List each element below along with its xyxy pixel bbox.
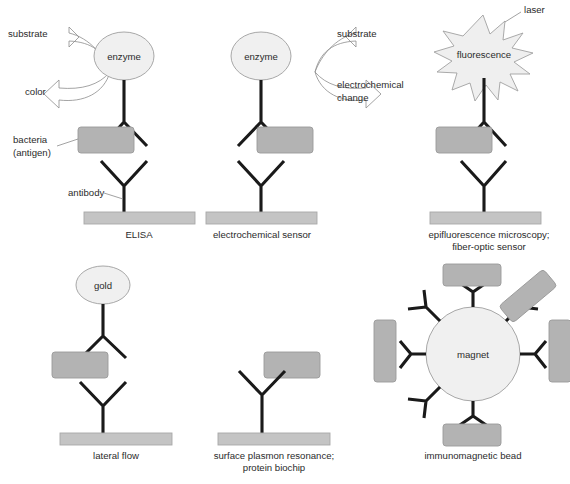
panel-epifluorescence: fluorescence laser epifluorescence micro… <box>428 4 549 252</box>
panel-caption-epifluorescence-line2: fiber-optic sensor <box>452 241 526 252</box>
antigen-box-bead-left <box>374 320 396 382</box>
antigen-box-bead-top <box>443 264 501 286</box>
gold-label: gold <box>94 280 112 291</box>
bacteria-leader-line <box>57 139 78 146</box>
panel-caption-immunomagnetic-bead: immunomagnetic bead <box>424 450 521 461</box>
antibody-lower-2 <box>238 161 284 213</box>
antibody-bead-right <box>520 341 546 368</box>
laser-leader-line <box>505 12 521 22</box>
antigen-box-5 <box>264 352 320 378</box>
antigen-box-bead-bottom <box>443 424 501 446</box>
panel-spr: surface plasmon resonance; protein bioch… <box>214 352 335 473</box>
laser-label: laser <box>524 4 546 15</box>
immunoassay-formats-diagram: enzyme substrate color bacteria (antigen… <box>0 0 570 484</box>
panel-elisa: enzyme substrate color bacteria (antigen… <box>8 27 195 240</box>
antigen-label: (antigen) <box>13 147 51 158</box>
panel-caption-spr-line2: protein biochip <box>243 462 305 473</box>
antigen-box-bead-tilted <box>499 269 558 323</box>
antibody-leader-line <box>104 193 123 199</box>
panel-electrochemical-sensor: enzyme substrate electrochemical change … <box>206 27 404 240</box>
color-arrow-icon <box>44 72 110 108</box>
figure-root: enzyme substrate color bacteria (antigen… <box>0 0 570 484</box>
color-label: color <box>25 86 47 97</box>
antibody-bead-bottom <box>457 401 489 427</box>
antibody-lower <box>101 161 147 213</box>
panel-lateral-flow: gold lateral flow <box>52 266 172 461</box>
antigen-box-2 <box>257 127 313 153</box>
support-bar-3 <box>430 212 541 224</box>
antigen-box-3 <box>436 127 492 153</box>
antibody-bead-upper-left <box>408 290 440 321</box>
antigen-box <box>78 127 134 153</box>
enzyme-label: enzyme <box>107 51 141 62</box>
support-bar <box>84 212 195 224</box>
change-label: change <box>337 92 368 103</box>
enzyme-label-2: enzyme <box>244 51 278 62</box>
antibody-bead-lower-left <box>408 387 440 418</box>
electrochemical-label: electrochemical <box>337 79 404 90</box>
antibody-upper-4 <box>81 304 126 358</box>
antigen-box-bead-right <box>549 320 570 382</box>
panel-caption-electrochemical: electrochemical sensor <box>213 229 312 240</box>
substrate-label-2: substrate <box>337 28 376 39</box>
antibody-spr <box>239 371 285 436</box>
panel-caption-lateral-flow: lateral flow <box>93 450 139 461</box>
substrate-label: substrate <box>8 28 47 39</box>
bacteria-label: bacteria <box>13 134 48 145</box>
panel-caption-spr-line1: surface plasmon resonance; <box>214 450 335 461</box>
antibody-label: antibody <box>68 187 104 198</box>
fluorescence-label: fluorescence <box>457 49 511 60</box>
panel-caption-elisa: ELISA <box>125 229 153 240</box>
antibody-lower-4 <box>80 382 126 436</box>
panel-immunomagnetic-bead: magnet immunomagnetic bead <box>374 264 570 461</box>
magnet-label: magnet <box>457 349 489 360</box>
support-bar-2 <box>206 212 317 224</box>
panel-caption-epifluorescence-line1: epifluorescence microscopy; <box>428 229 549 240</box>
antibody-bead-left <box>400 341 426 368</box>
antibody-lower-3 <box>461 161 506 213</box>
support-bar-4 <box>60 433 172 445</box>
antigen-box-4 <box>52 352 108 378</box>
support-bar-5 <box>218 433 330 445</box>
